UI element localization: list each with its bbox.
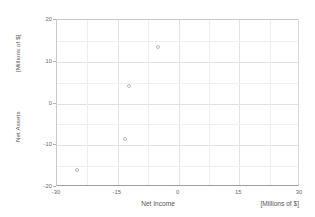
y-tick-label: -20 [44, 183, 52, 189]
x-tick-label: 30 [296, 189, 302, 195]
gridline-vertical-minor [270, 20, 271, 185]
y-tick-label: 0 [49, 100, 52, 106]
x-axis-units-label: [Millions of $] [261, 200, 299, 207]
gridline-horizontal-minor [57, 124, 298, 125]
plot-area [56, 19, 299, 186]
data-point-marker [156, 45, 160, 49]
gridline-horizontal-minor [57, 83, 298, 84]
y-tick-label: 20 [46, 16, 52, 22]
gridline-vertical [179, 20, 180, 185]
gridline-vertical [239, 20, 240, 185]
scatter-chart: [Millions of $] Net Assets -20-1001020 -… [0, 0, 315, 217]
gridline-horizontal [57, 145, 298, 146]
gridline-horizontal [57, 62, 298, 63]
gridline-horizontal-minor [57, 166, 298, 167]
data-point-marker [123, 137, 127, 141]
x-tick-label: -30 [52, 189, 60, 195]
y-axis-units-label: [Millions of $] [14, 34, 21, 72]
y-tick-label: 10 [46, 58, 52, 64]
y-axis-tick-labels: -20-1001020 [34, 19, 52, 186]
y-tick-mark [53, 186, 56, 187]
gridline-vertical-minor [148, 20, 149, 185]
data-point-marker [75, 168, 79, 172]
y-axis-title: Net Assets [14, 111, 21, 142]
x-tick-label: 15 [235, 189, 241, 195]
x-tick-label: -15 [113, 189, 121, 195]
x-axis-title: Net Income [141, 200, 175, 207]
gridline-horizontal-minor [57, 41, 298, 42]
data-point-marker [127, 84, 131, 88]
gridline-horizontal [57, 104, 298, 105]
gridline-vertical-minor [87, 20, 88, 185]
x-tick-label: 0 [176, 189, 179, 195]
gridline-vertical [118, 20, 119, 185]
gridline-vertical-minor [209, 20, 210, 185]
y-tick-label: -10 [44, 141, 52, 147]
